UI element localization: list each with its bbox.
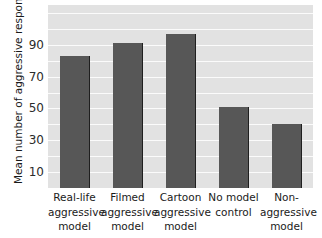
y-tick-label: 90	[14, 39, 44, 51]
x-tick-label-line: Cartoon	[154, 190, 207, 205]
x-tick-label-line: model	[101, 219, 154, 234]
y-axis-tick-labels: 1030507090	[12, 0, 44, 238]
x-tick-label-line: aggressive	[101, 205, 154, 220]
x-tick-label: Real-lifeaggressivemodel	[48, 190, 101, 234]
plot-area	[48, 5, 313, 188]
x-tick-label-line: model	[260, 219, 313, 234]
y-tick-label: 10	[14, 166, 44, 178]
y-tick-label: 70	[14, 71, 44, 83]
bar	[60, 56, 90, 188]
x-axis-tick-labels: Real-lifeaggressivemodelFilmedaggressive…	[48, 190, 313, 238]
x-tick-label: Cartoonaggressivemodel	[154, 190, 207, 234]
x-tick-label-line: aggressive	[154, 205, 207, 220]
bar	[219, 107, 249, 188]
x-tick-label-line: model	[48, 219, 101, 234]
bar-chart: Mean number of aggressive responses 1030…	[0, 0, 322, 238]
gridline	[48, 29, 313, 30]
y-tick-label: 30	[14, 134, 44, 146]
bar	[113, 43, 143, 188]
gridline	[48, 13, 313, 14]
y-tick-label: 50	[14, 102, 44, 114]
x-tick-label: Filmedaggressivemodel	[101, 190, 154, 234]
x-tick-label-line: Non-	[260, 190, 313, 205]
x-tick-label-line: aggressive	[48, 205, 101, 220]
x-tick-label: Non-aggressivemodel	[260, 190, 313, 234]
x-tick-label-line: aggressive	[260, 205, 313, 220]
x-tick-label: No modelcontrol	[207, 190, 260, 219]
x-tick-label-line: Real-life	[48, 190, 101, 205]
x-tick-label-line: control	[207, 205, 260, 220]
x-tick-label-line: Filmed	[101, 190, 154, 205]
bar	[272, 124, 302, 188]
x-tick-label-line: No model	[207, 190, 260, 205]
bar	[166, 34, 196, 188]
x-tick-label-line: model	[154, 219, 207, 234]
